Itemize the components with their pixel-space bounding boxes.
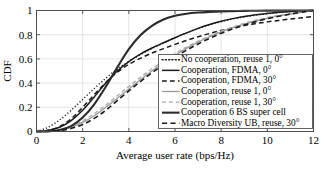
x-tick-label: 6 xyxy=(172,134,178,146)
x-tick-label: 8 xyxy=(218,134,224,146)
cdf-chart-figure: 02468101200.20.40.60.81Average user rate… xyxy=(0,0,326,173)
legend-label-1: Cooperation, FDMA, 0° xyxy=(181,65,272,75)
x-tick-label: 2 xyxy=(80,134,86,146)
chart-canvas: 02468101200.20.40.60.81Average user rate… xyxy=(0,0,326,173)
y-tick-label: 0.2 xyxy=(19,101,33,113)
legend-label-4: Cooperation, reuse 1, 30° xyxy=(181,97,276,107)
legend-label-0: No cooperation, reuse 1, 0° xyxy=(181,54,283,64)
y-tick-label: 0 xyxy=(27,125,33,137)
legend-label-3: Cooperation, reuse 1, 0° xyxy=(181,86,271,96)
y-tick-label: 0.4 xyxy=(19,77,33,89)
y-tick-label: 0.6 xyxy=(19,53,33,65)
x-tick-label: 4 xyxy=(126,134,132,146)
legend-label-2: Cooperation, FDMA, 30° xyxy=(181,75,276,85)
x-tick-label: 10 xyxy=(262,134,274,146)
legend-label-6: Macro Diversity UB, reuse, 30° xyxy=(181,118,300,128)
y-tick-label: 1 xyxy=(27,4,33,16)
x-tick-label: 12 xyxy=(308,134,319,146)
legend-label-5: Cooperation 6 BS super cell xyxy=(181,107,286,117)
y-tick-label: 0.8 xyxy=(19,29,33,41)
x-tick-label: 0 xyxy=(34,134,40,146)
legend: No cooperation, reuse 1, 0°Cooperation, … xyxy=(159,54,313,128)
x-axis-title: Average user rate (bps/Hz) xyxy=(116,149,234,162)
y-axis-title: CDF xyxy=(1,60,13,81)
